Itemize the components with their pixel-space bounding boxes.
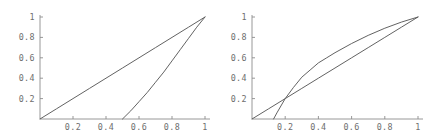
left-curve-lower-curve [123,17,206,119]
right-xtick-label: 0.6 [343,122,359,132]
left-ytick-label: 0.2 [19,94,35,104]
left-ytick-label: 1 [30,12,35,22]
left-plot-series [40,17,205,119]
left-plot-tick-labels: 0.20.40.60.810.20.40.60.81 [19,12,208,132]
left-ytick-label: 0.4 [19,73,35,83]
left-ytick-label: 0.8 [19,32,35,42]
right-ytick-label: 0.2 [231,94,247,104]
right-xtick-label: 0.2 [277,122,293,132]
figure-container: 0.20.40.60.810.20.40.60.81 0.20.40.60.81… [0,0,431,137]
left-plot-panel: 0.20.40.60.810.20.40.60.81 [0,0,215,137]
right-ytick-label: 0.4 [231,73,247,83]
right-curve-concave-curve [274,17,418,119]
left-xtick-label: 1 [202,122,207,132]
right-ytick-label: 1 [242,12,247,22]
left-xtick-label: 0.8 [164,122,180,132]
left-xtick-label: 0.6 [131,122,147,132]
left-xtick-label: 0.2 [65,122,81,132]
right-ytick-label: 0.6 [231,53,247,63]
right-xtick-label: 0.8 [377,122,393,132]
left-xtick-label: 0.4 [98,122,114,132]
left-ytick-label: 0.6 [19,53,35,63]
left-plot-svg: 0.20.40.60.810.20.40.60.81 [0,0,215,137]
right-xtick-label: 1 [415,122,420,132]
right-xtick-label: 0.4 [310,122,326,132]
left-curve-diagonal [40,17,205,119]
right-ytick-label: 0.8 [231,32,247,42]
right-curve-diagonal [252,17,418,119]
right-plot-tick-labels: 0.20.40.60.810.20.40.60.81 [231,12,421,132]
right-plot-series [252,17,418,119]
right-plot-panel: 0.20.40.60.810.20.40.60.81 [215,0,431,137]
right-plot-svg: 0.20.40.60.810.20.40.60.81 [215,0,431,137]
